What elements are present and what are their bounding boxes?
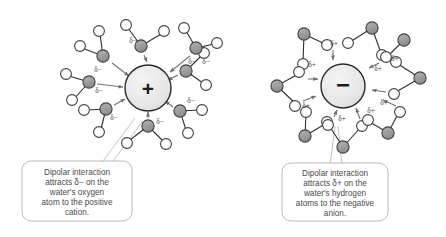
cation-callout-line: Dipolar interaction xyxy=(44,168,110,177)
hydrogen-atom xyxy=(159,26,170,37)
hydrogen-atom xyxy=(94,26,105,37)
delta-minus-label: δ− xyxy=(187,96,195,105)
oxygen-atom xyxy=(190,42,202,54)
hydrogen-atom xyxy=(75,41,86,52)
oxygen-atom xyxy=(299,130,311,142)
hydrogen-atom xyxy=(94,127,105,138)
oxygen-atom xyxy=(180,65,192,77)
oxygen-atom xyxy=(83,76,95,88)
oxygen-atom xyxy=(366,22,378,34)
delta-plus-label: δ+ xyxy=(308,60,316,69)
hydrogen-atom xyxy=(294,67,305,78)
delta-minus-label: δ− xyxy=(129,36,137,45)
cation-panel: δ− δ− δ− δ− δ− δ− δ− δ− + Dipolar intera… xyxy=(22,20,222,221)
oxygen-atom xyxy=(337,141,349,153)
oxygen-atom xyxy=(298,28,310,40)
delta-plus-label: δ+ xyxy=(374,64,382,73)
delta-plus-label: δ+ xyxy=(302,101,310,110)
hydrogen-atom xyxy=(343,38,354,49)
delta-minus-label: δ− xyxy=(95,86,103,95)
delta-plus-label: δ+ xyxy=(330,39,338,48)
anion-callout-line: attracts δ+ on the xyxy=(303,179,367,188)
hydrogen-atom xyxy=(323,120,334,131)
hydrogen-atom xyxy=(121,20,132,31)
hydrogen-atom xyxy=(161,139,172,150)
cation-callout-line: atom to the positive xyxy=(42,198,113,207)
hydrogen-atom xyxy=(201,80,212,91)
cation-charge-symbol: + xyxy=(142,77,154,100)
figure-canvas: δ− δ− δ− δ− δ− δ− δ− δ− + Dipolar intera… xyxy=(0,0,446,237)
hydrogen-atom xyxy=(212,38,223,49)
cation-callout: Dipolar interaction attracts δ− on the w… xyxy=(22,161,132,221)
cation-callout-line: cation. xyxy=(65,208,89,217)
oxygen-atom xyxy=(271,80,283,92)
oxygen-atom xyxy=(142,120,154,132)
oxygen-atom xyxy=(174,105,186,117)
hydrogen-atom xyxy=(67,95,78,106)
anion-charge-symbol: − xyxy=(336,71,350,98)
hydrogen-atom xyxy=(290,101,301,112)
anion-callout-line: anion. xyxy=(324,209,346,218)
anion-callout-line: atoms to the negative xyxy=(296,199,375,208)
hydrogen-atom xyxy=(183,128,194,139)
delta-minus-label: δ− xyxy=(202,57,210,66)
delta-plus-label: δ+ xyxy=(380,98,388,107)
hydrogen-atom xyxy=(122,138,133,149)
hydrogen-atom xyxy=(79,105,90,116)
delta-minus-label: δ− xyxy=(94,65,102,74)
oxygen-atom xyxy=(398,34,410,46)
hydrogen-atom xyxy=(381,52,392,63)
anion-callout-line: water's hydrogen xyxy=(303,189,367,198)
delta-plus-label: δ+ xyxy=(367,106,375,115)
delta-plus-label: δ+ xyxy=(391,54,399,63)
anion-panel: δ+ δ+ δ+ δ+ δ+ δ+ δ+ δ+ − Dipolar intera… xyxy=(271,22,426,221)
oxygen-atom xyxy=(97,50,109,62)
delta-minus-label: δ− xyxy=(188,57,196,66)
hydrogen-atom xyxy=(363,115,374,126)
cation-callout-line: water's oxygen xyxy=(49,188,105,197)
anion-callout-line: Dipolar interaction xyxy=(302,169,368,178)
ion-dipole-diagram: δ− δ− δ− δ− δ− δ− δ− δ− + Dipolar intera… xyxy=(0,0,446,237)
delta-minus-label: δ− xyxy=(156,117,164,126)
delta-plus-label: δ+ xyxy=(338,114,346,123)
hydrogen-atom xyxy=(197,105,208,116)
cation-callout-line: attracts δ− on the xyxy=(45,178,109,187)
hydrogen-atom xyxy=(61,69,72,80)
hydrogen-atom xyxy=(389,89,400,100)
hydrogen-atom xyxy=(179,23,190,34)
oxygen-atom xyxy=(382,127,394,139)
oxygen-atom xyxy=(414,72,426,84)
delta-minus-label: δ− xyxy=(110,113,118,122)
anion-callout: Dipolar interaction attracts δ+ on the w… xyxy=(282,163,388,221)
hydrogen-atom xyxy=(395,107,406,118)
